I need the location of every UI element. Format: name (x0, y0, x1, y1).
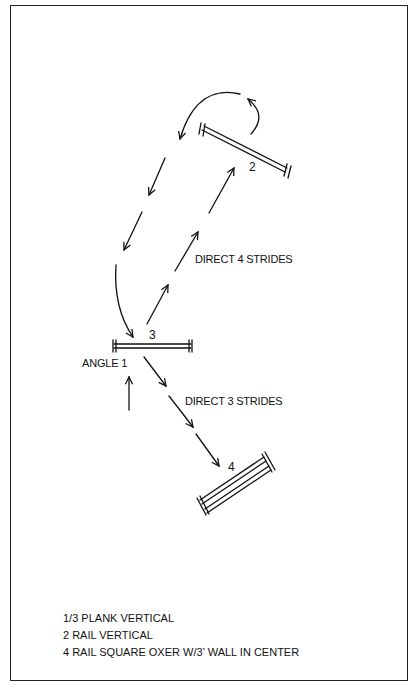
legend: 1/3 PLANK VERTICAL 2 RAIL VERTICAL 4 RAI… (63, 610, 299, 661)
arrow-3-to-2-b (175, 232, 198, 271)
angle-1-label: ANGLE 1 (82, 357, 127, 369)
arrow-turn-right (248, 99, 259, 134)
arrow-3-to-2-c (209, 168, 234, 213)
direct-4-strides-label: DIRECT 4 STRIDES (195, 253, 292, 265)
direct-3-strides-label: DIRECT 3 STRIDES (185, 395, 282, 407)
arrow-3-to-4-c (196, 434, 219, 466)
fence-3-label: 3 (149, 328, 156, 342)
legend-item-plank-vertical: 1/3 PLANK VERTICAL (63, 610, 299, 627)
arrow-3-to-2-a (147, 285, 168, 324)
course-diagram (0, 0, 414, 695)
legend-item-rail-vertical: 2 RAIL VERTICAL (63, 627, 299, 644)
arrow-3-to-4-a (144, 357, 166, 386)
fence-4 (197, 452, 275, 515)
arrow-return-b (124, 212, 142, 250)
fence-4-label: 4 (228, 460, 235, 474)
fence-2-label: 2 (249, 160, 256, 174)
arrow-turn-left (180, 92, 240, 139)
arrow-return-a (149, 158, 165, 195)
legend-item-square-oxer: 4 RAIL SQUARE OXER W/3’ WALL IN CENTER (63, 644, 299, 661)
fence-2 (199, 123, 291, 178)
arrow-return-curve (116, 265, 133, 337)
